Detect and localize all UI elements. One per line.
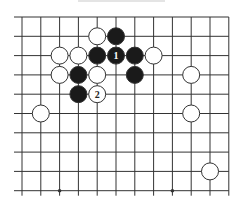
white-stone [70, 47, 87, 64]
black-stone: 1 [108, 47, 125, 64]
stones: 12 [32, 28, 218, 180]
move-number-label: 1 [114, 50, 119, 61]
white-stone [202, 163, 219, 180]
star-point [171, 189, 175, 193]
star-point [58, 189, 62, 193]
white-stone [51, 47, 68, 64]
white-stone [145, 47, 162, 64]
black-stone [89, 47, 106, 64]
go-board-diagram: 12 [0, 0, 237, 208]
black-stone [126, 66, 143, 83]
white-stone [89, 66, 106, 83]
black-stone [108, 28, 125, 45]
white-stone [183, 66, 200, 83]
white-stone [89, 28, 106, 45]
black-stone [70, 66, 87, 83]
white-stone [183, 105, 200, 122]
move-number-label: 2 [95, 89, 100, 100]
black-stone [126, 47, 143, 64]
black-stone [70, 86, 87, 103]
white-stone [51, 66, 68, 83]
white-stone [32, 105, 49, 122]
white-stone: 2 [89, 86, 106, 103]
